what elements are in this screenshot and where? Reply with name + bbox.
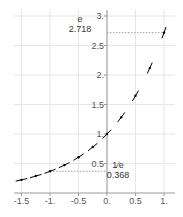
data-point (92, 146, 94, 148)
annotation-e-value: 2.718 (69, 24, 92, 34)
data-point (120, 116, 122, 118)
x-tick-label: -1.5 (14, 196, 30, 206)
data-point (49, 170, 51, 172)
x-tick-label: 0. (103, 196, 111, 206)
data-point (77, 156, 79, 158)
annotation-e-label: e (77, 14, 82, 24)
y-tick-label: 0.5 (91, 159, 104, 169)
y-tick-label: 3. (96, 11, 104, 21)
data-point (106, 133, 108, 135)
exp-chart: -1.5-1.-0.50.0.51.0.51.1.52.2.53.e2.7181… (0, 0, 183, 217)
annotation-inv-e-label: 1∕e (112, 160, 124, 170)
y-tick-label: 1.5 (91, 100, 104, 110)
x-tick-label: -0.5 (71, 196, 87, 206)
data-point (63, 164, 65, 166)
x-tick-label: 0.5 (129, 196, 142, 206)
y-tick-label: 2. (96, 70, 104, 80)
y-tick-label: 2.5 (91, 41, 104, 51)
x-tick-label: 1. (160, 196, 168, 206)
data-point (20, 179, 22, 181)
annotation-inv-e-value: 0.368 (107, 170, 130, 180)
y-tick-label: 1. (96, 129, 104, 139)
data-point (163, 31, 165, 33)
data-point (149, 67, 151, 69)
x-tick-label: -1. (45, 196, 56, 206)
data-point (134, 95, 136, 97)
data-point (35, 175, 37, 177)
